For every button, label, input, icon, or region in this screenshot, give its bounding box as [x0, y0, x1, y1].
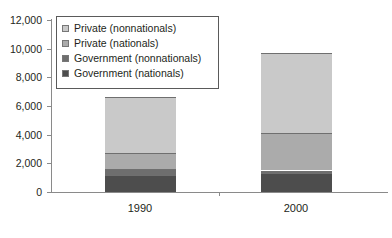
stacked-bar-chart: 02,0004,0006,0008,00010,00012,000 199020…: [0, 0, 392, 238]
x-axis-tick-label: 1990: [100, 203, 180, 214]
y-axis-tick-label: 6,000: [0, 101, 42, 112]
y-axis-tick: [47, 135, 51, 136]
legend-item[interactable]: Government (nonnationals): [62, 51, 212, 66]
y-axis-line: [51, 19, 52, 193]
bar-segment[interactable]: [105, 153, 176, 169]
y-axis-tick-label: 2,000: [0, 158, 42, 169]
legend-item[interactable]: Private (nonnationals): [62, 21, 212, 36]
x-axis-center-tick: [219, 192, 220, 196]
legend-item[interactable]: Government (nationals): [62, 66, 212, 81]
legend-item[interactable]: Private (nationals): [62, 36, 212, 51]
y-axis-tick-label: 4,000: [0, 130, 42, 141]
legend-swatch-icon: [62, 25, 69, 32]
y-axis-tick: [47, 106, 51, 107]
y-axis-tick-label: 8,000: [0, 72, 42, 83]
legend-item-label: Government (nonnationals): [74, 53, 201, 64]
y-axis-tick: [47, 49, 51, 50]
bar-segment[interactable]: [261, 171, 332, 174]
legend-item-label: Government (nationals): [74, 68, 184, 79]
bar-1990[interactable]: [105, 97, 176, 192]
y-axis-tick: [47, 163, 51, 164]
legend-swatch-icon: [62, 70, 69, 77]
legend-swatch-icon: [62, 55, 69, 62]
bar-2000[interactable]: [261, 53, 332, 192]
y-axis-tick: [47, 20, 51, 21]
x-axis-tick-label: 2000: [256, 203, 336, 214]
chart-legend: Private (nonnationals)Private (nationals…: [56, 16, 219, 89]
bar-segment[interactable]: [261, 53, 332, 133]
bar-segment[interactable]: [261, 133, 332, 170]
y-axis-tick: [47, 192, 51, 193]
bar-segment[interactable]: [105, 97, 176, 153]
y-axis-tick-label: 12,000: [0, 15, 42, 26]
y-axis-tick-label: 0: [0, 187, 42, 198]
y-axis-tick: [47, 77, 51, 78]
legend-item-label: Private (nonnationals): [74, 23, 176, 34]
bar-segment[interactable]: [105, 175, 176, 192]
bar-segment[interactable]: [261, 173, 332, 192]
legend-item-label: Private (nationals): [74, 38, 159, 49]
bar-segment[interactable]: [105, 169, 176, 175]
y-axis-tick-label: 10,000: [0, 44, 42, 55]
legend-swatch-icon: [62, 40, 69, 47]
